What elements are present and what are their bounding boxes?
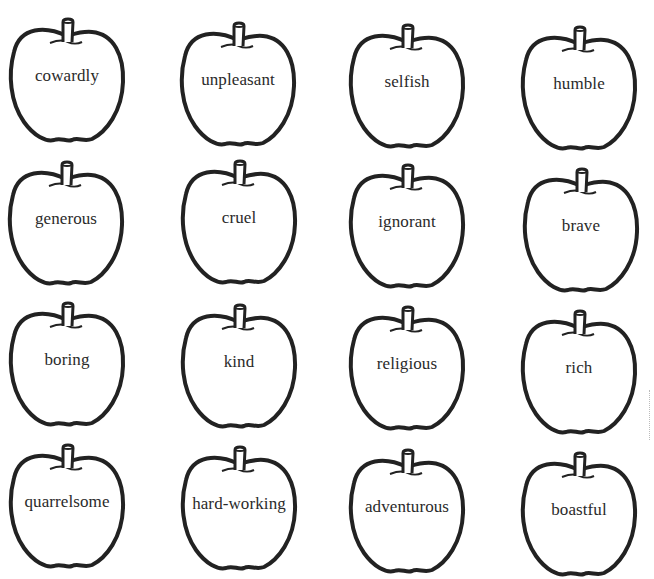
- apple-word: cowardly: [6, 66, 128, 86]
- scan-margin-marks: [649, 390, 653, 440]
- apple-word: humble: [518, 74, 640, 94]
- apple-word: boring: [6, 350, 128, 370]
- apple-card: boring: [6, 296, 128, 431]
- apple-word: rich: [518, 358, 640, 378]
- apple-card: hard-working: [178, 440, 300, 575]
- apple-word: unpleasant: [177, 70, 299, 90]
- apple-word: ignorant: [346, 212, 468, 232]
- apple-card: rich: [518, 304, 640, 439]
- apple-card: unpleasant: [177, 16, 299, 151]
- apple-card: selfish: [346, 18, 468, 153]
- apple-card: cowardly: [6, 12, 128, 147]
- apple-card: generous: [5, 155, 127, 290]
- apple-word: generous: [5, 209, 127, 229]
- apple-word: quarrelsome: [6, 492, 128, 512]
- apple-word: cruel: [178, 208, 300, 228]
- apple-card: humble: [518, 20, 640, 155]
- apple-word: brave: [520, 216, 642, 236]
- apple-card: boastful: [518, 446, 640, 579]
- apple-card: kind: [178, 298, 300, 433]
- apple-word: boastful: [518, 500, 640, 520]
- apple-card: adventurous: [346, 443, 468, 578]
- apple-word: religious: [346, 354, 468, 374]
- apple-word: adventurous: [346, 497, 468, 517]
- apple-card: religious: [346, 300, 468, 435]
- apple-word: kind: [178, 352, 300, 372]
- apple-card: cruel: [178, 154, 300, 289]
- apple-card: quarrelsome: [6, 438, 128, 573]
- apple-word: hard-working: [178, 494, 300, 514]
- apple-card: ignorant: [346, 158, 468, 293]
- apple-word: selfish: [346, 72, 468, 92]
- apple-card: brave: [520, 162, 642, 297]
